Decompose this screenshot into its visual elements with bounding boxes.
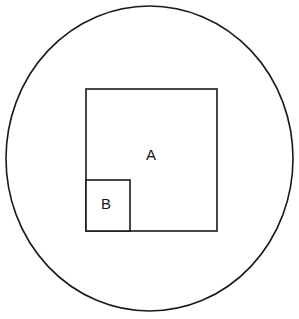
square-a-label: A bbox=[146, 146, 156, 163]
geometry-diagram: A B bbox=[0, 0, 299, 319]
diagram-canvas: A B bbox=[0, 0, 299, 319]
square-b-label: B bbox=[101, 195, 111, 212]
